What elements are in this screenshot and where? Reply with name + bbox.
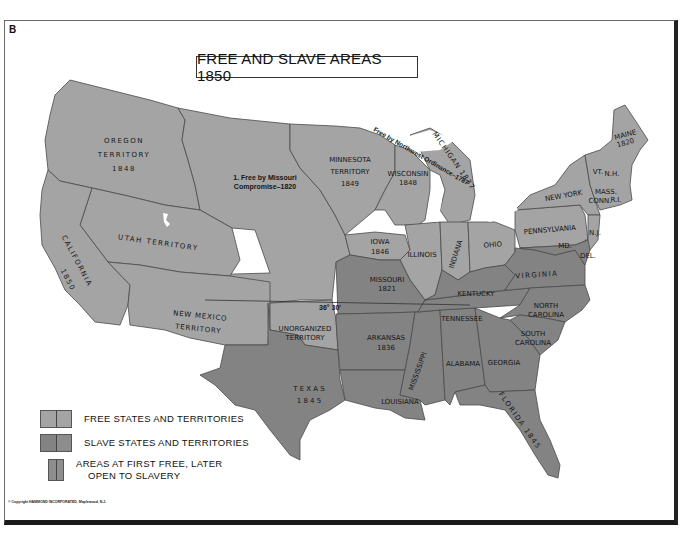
label-missouri-compromise: 1. Free by Missouri xyxy=(233,174,296,182)
label-rhode-island: R.I. xyxy=(610,196,621,204)
label-minnesota: MINNESOTA xyxy=(329,156,371,164)
label-vermont: VT. xyxy=(593,168,603,176)
svg-text:1848: 1848 xyxy=(112,165,136,173)
legend-item-free: FREE STATES AND TERRITORIES xyxy=(40,410,249,428)
label-kentucky: KENTUCKY xyxy=(457,290,495,298)
lake-erie xyxy=(480,205,518,222)
label-north-carolina: NORTH xyxy=(534,302,559,310)
region-virginia xyxy=(505,248,585,290)
lake-michigan xyxy=(430,175,442,222)
svg-text:1848: 1848 xyxy=(399,179,417,187)
label-ohio: OHIO xyxy=(483,240,502,250)
svg-text:1821: 1821 xyxy=(378,285,396,293)
legend-item-slave: SLAVE STATES AND TERRITORIES xyxy=(40,434,249,452)
swatch-free xyxy=(40,410,72,428)
label-new-hampshire: N.H. xyxy=(605,170,620,178)
label-connecticut: CONN. xyxy=(588,197,611,205)
svg-text:1836: 1836 xyxy=(377,344,395,352)
label-parallel: 36° 30' xyxy=(319,304,341,311)
label-massachusetts: MASS. xyxy=(595,188,617,196)
svg-text:1 8 4 5: 1 8 4 5 xyxy=(297,397,322,405)
label-georgia: GEORGIA xyxy=(488,359,521,367)
svg-text:TERRITORY: TERRITORY xyxy=(330,168,371,176)
label-arkansas: ARKANSAS xyxy=(367,334,406,342)
label-south-carolina: SOUTH xyxy=(521,330,546,338)
label-texas: T E X A S xyxy=(292,385,325,393)
svg-text:CAROLINA: CAROLINA xyxy=(528,311,564,319)
swatch-slave xyxy=(40,434,72,452)
label-wisconsin: WISCONSIN xyxy=(388,170,429,178)
label-missouri: MISSOURI xyxy=(370,276,405,284)
legend-item-first-free-later-slavery: AREAS AT FIRST FREE, LATER OPEN TO SLAVE… xyxy=(40,458,249,482)
label-maryland: MD. xyxy=(558,242,572,250)
svg-text:1849: 1849 xyxy=(341,180,359,188)
swatch-first-free-later-slavery xyxy=(48,459,64,481)
label-unorganized: UNORGANIZED xyxy=(279,325,332,333)
label-new-jersey: N.J. xyxy=(589,229,601,237)
svg-text:Compromise–1820: Compromise–1820 xyxy=(234,183,296,191)
svg-text:TERRITORY: TERRITORY xyxy=(97,151,150,159)
map-title: FREE AND SLAVE AREAS 1850 xyxy=(196,56,418,78)
label-illinois: ILLINOIS xyxy=(407,251,437,259)
copyright: © Copyright HAMMOND INCORPORATED, Maplew… xyxy=(8,500,106,504)
label-louisiana: LOUISIANA xyxy=(381,398,419,406)
legend: FREE STATES AND TERRITORIES SLAVE STATES… xyxy=(40,410,249,488)
svg-text:TERRITORY: TERRITORY xyxy=(285,334,326,342)
label-delaware: DEL. xyxy=(580,252,596,260)
label-tennessee: TENNESSEE xyxy=(440,315,482,323)
label-alabama: ALABAMA xyxy=(446,360,480,368)
label-oregon: OREGON xyxy=(104,137,144,145)
svg-text:1846: 1846 xyxy=(371,248,389,256)
label-iowa: IOWA xyxy=(371,238,390,246)
svg-text:CAROLINA: CAROLINA xyxy=(515,339,551,347)
